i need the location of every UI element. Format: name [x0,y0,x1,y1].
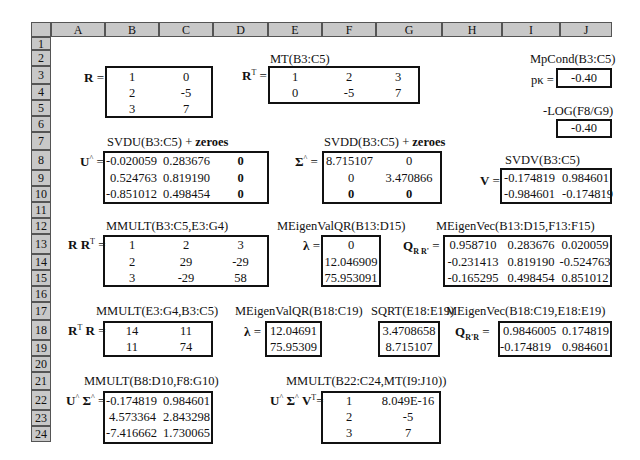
cell-g22[interactable]: 8.049E-16 [376,394,440,409]
select-all-corner[interactable] [31,22,51,37]
cell-d14[interactable]: -29 [213,255,268,270]
cell-b5[interactable]: 3 [105,102,159,117]
row-header-21[interactable]: 21 [31,372,51,390]
row-header-4[interactable]: 4 [31,84,51,100]
cell-f23[interactable]: 2 [322,410,376,425]
column-header-b[interactable]: B [105,22,159,37]
cell-h14[interactable]: -0.231413 [444,255,502,270]
cell-i13[interactable]: 0.283676 [502,238,560,253]
row-header-20[interactable]: 20 [31,356,51,372]
cell-j14[interactable]: -0.524763 [558,255,612,270]
column-header-a[interactable]: A [51,22,105,37]
column-header-c[interactable]: C [159,22,213,37]
cell-j13[interactable]: 0.020059 [558,238,612,253]
row-header-10[interactable]: 10 [31,186,51,202]
cell-g9[interactable]: 3.470866 [376,171,442,186]
cell-b3[interactable]: 1 [105,70,159,85]
column-header-h[interactable]: H [442,22,502,37]
column-header-f[interactable]: F [322,22,376,37]
cell-f9[interactable]: 0 [322,171,380,186]
cell-c13[interactable]: 2 [159,238,213,253]
row-header-17[interactable]: 17 [31,302,51,320]
column-header-j[interactable]: J [560,22,612,37]
cell-d15[interactable]: 58 [213,271,268,286]
cell-i14[interactable]: 0.819190 [502,255,560,270]
cell-b8[interactable]: -0.020059 [106,154,164,169]
cell-f4[interactable]: -5 [322,86,376,101]
cell-e19[interactable]: 75.95309 [270,340,322,355]
cell-h13[interactable]: 0.958710 [444,238,502,253]
row-header-8[interactable]: 8 [31,150,51,170]
cell-e4[interactable]: 0 [268,86,322,101]
cell-j19[interactable]: 0.984601 [562,340,612,355]
cell-f14[interactable]: 12.046909 [321,255,381,270]
row-header-14[interactable]: 14 [31,254,51,270]
cell-c23[interactable]: 2.843298 [163,410,213,425]
cell-h15[interactable]: -0.165295 [444,271,502,286]
row-header-12[interactable]: 12 [31,218,51,234]
cell-b18[interactable]: 14 [105,324,159,339]
cell-f13[interactable]: 0 [321,238,381,253]
cell-d9[interactable]: 0 [213,171,268,186]
cell-c15[interactable]: -29 [159,271,213,286]
cell-b14[interactable]: 2 [105,255,159,270]
cell-g23[interactable]: -5 [376,410,440,425]
cell-e18[interactable]: 12.04691 [270,324,322,339]
cell-j15[interactable]: 0.851012 [558,271,612,286]
cell-i10[interactable]: -0.984601 [504,187,560,202]
cell-i19[interactable]: -0.174819 [500,340,558,355]
cell-j10[interactable]: -0.174819 [562,187,612,202]
cell-c18[interactable]: 11 [159,324,213,339]
cell-i9[interactable]: -0.174819 [504,171,560,186]
cell-c22[interactable]: 0.984601 [163,394,213,409]
row-header-7[interactable]: 7 [31,132,51,150]
column-header-e[interactable]: E [268,22,322,37]
cell-c5[interactable]: 7 [159,102,213,117]
cell-c3[interactable]: 0 [159,70,213,85]
cell-c4[interactable]: -5 [159,86,213,101]
row-header-6[interactable]: 6 [31,116,51,132]
cell-g24[interactable]: 7 [376,426,440,441]
row-header-16[interactable]: 16 [31,286,51,302]
row-header-13[interactable]: 13 [31,234,51,254]
row-header-23[interactable]: 23 [31,410,51,426]
cell-g3[interactable]: 3 [376,70,420,85]
cell-i18[interactable]: 0.9846005 [503,324,561,339]
row-header-22[interactable]: 22 [31,390,51,410]
cell-e3[interactable]: 1 [268,70,322,85]
cell-b19[interactable]: 11 [105,340,159,355]
cell-i15[interactable]: 0.498454 [502,271,560,286]
row-header-18[interactable]: 18 [31,320,51,340]
cell-f3[interactable]: 2 [322,70,376,85]
row-header-15[interactable]: 15 [31,270,51,286]
row-header-11[interactable]: 11 [31,202,51,218]
row-header-2[interactable]: 2 [31,50,51,66]
column-header-d[interactable]: D [213,22,268,37]
cell-c19[interactable]: 74 [159,340,213,355]
cell-g18[interactable]: 3.4708658 [378,324,440,339]
cell-b13[interactable]: 1 [105,238,159,253]
cell-b15[interactable]: 3 [105,271,159,286]
row-header-3[interactable]: 3 [31,66,51,84]
cell-g4[interactable]: 7 [376,86,420,101]
cell-b22[interactable]: -0.174819 [106,394,162,409]
column-header-g[interactable]: G [376,22,442,37]
row-header-1[interactable]: 1 [31,37,51,50]
cell-b9[interactable]: 0.524763 [110,171,168,186]
cell-c14[interactable]: 29 [159,255,213,270]
cell-j18[interactable]: 0.174819 [562,324,612,339]
cell-f8[interactable]: 8.715107 [326,154,380,169]
cell-c24[interactable]: 1.730065 [163,426,213,441]
cell-j9[interactable]: 0.984601 [562,171,612,186]
cell-b23[interactable]: 4.573364 [109,410,165,425]
cell-f15[interactable]: 75.953091 [321,271,381,286]
cell-b24[interactable]: -7.416662 [106,426,162,441]
row-header-5[interactable]: 5 [31,100,51,116]
cell-g10[interactable]: 0 [376,187,442,202]
row-header-9[interactable]: 9 [31,170,51,186]
cell-d10[interactable]: 0 [213,187,268,202]
cell-f22[interactable]: 1 [322,394,376,409]
row-header-19[interactable]: 19 [31,340,51,356]
cell-d8[interactable]: 0 [213,154,268,169]
cell-g8[interactable]: 0 [376,154,442,169]
